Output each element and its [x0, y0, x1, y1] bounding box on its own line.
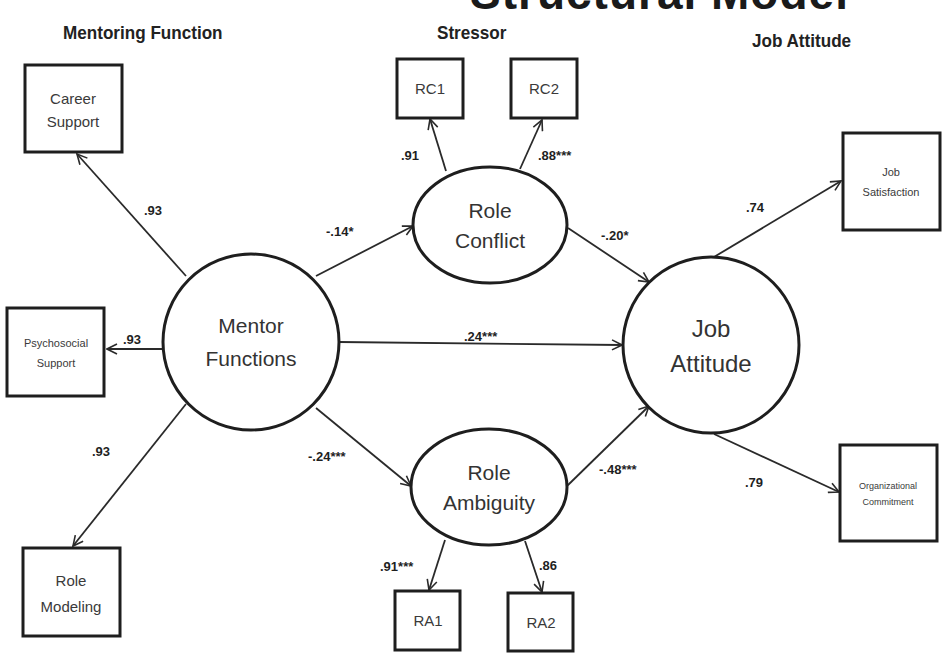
ra1-label: RA1: [413, 612, 442, 629]
mentor-functions-label-2: Functions: [205, 347, 296, 370]
role-modeling-label-2: Modeling: [41, 598, 102, 615]
psychosocial-label-2: Support: [37, 357, 76, 369]
job-satisfaction-label-1: Job: [882, 166, 900, 178]
role-ambiguity-label-1: Role: [467, 461, 510, 484]
role-conflict-label-1: Role: [468, 199, 511, 222]
path-mf-modeling: [73, 404, 186, 546]
latent-role-conflict: Role Conflict: [413, 167, 567, 283]
path-ja-satisfaction: [714, 181, 841, 257]
mentor-functions-label-1: Mentor: [218, 314, 283, 337]
indicator-role-modeling: Role Modeling: [23, 548, 120, 636]
indicator-rc2: RC2: [511, 59, 577, 118]
coef-rc-rc1: .91: [401, 148, 419, 163]
indicator-organizational-commitment: Organizational Commitment: [840, 445, 937, 541]
job-attitude-label-1: Job: [692, 315, 731, 342]
indicator-career-support: Career Support: [25, 65, 122, 152]
latent-job-attitude: Job Attitude: [623, 257, 799, 433]
latent-role-ambiguity: Role Ambiguity: [411, 429, 567, 545]
coef-mf-job-attitude: .24***: [464, 329, 498, 344]
latent-mentor-functions: Mentor Functions: [163, 254, 339, 430]
org-commitment-label-1: Organizational: [859, 481, 917, 491]
role-ambiguity-label-2: Ambiguity: [443, 491, 536, 514]
path-mf-career: [77, 154, 186, 276]
coef-rc-job-attitude: -.20*: [601, 228, 629, 243]
coef-mf-role-conflict: -.14*: [326, 224, 354, 239]
rc2-label: RC2: [529, 80, 559, 97]
indicator-ra1: RA1: [395, 591, 460, 650]
coef-mf-modeling: .93: [92, 444, 110, 459]
ra2-label: RA2: [526, 614, 555, 631]
coef-rc-rc2: .88***: [538, 148, 572, 163]
coef-mf-role-ambiguity: -.24***: [308, 449, 347, 464]
sem-diagram: Career Support Psychosocial Support Role…: [0, 0, 952, 663]
indicator-rc1: RC1: [397, 59, 463, 118]
role-conflict-label-2: Conflict: [455, 229, 525, 252]
rc1-label: RC1: [415, 80, 445, 97]
coef-mf-psychosocial: .93: [123, 332, 141, 347]
coef-ja-commitment: .79: [745, 475, 763, 490]
role-modeling-label-1: Role: [56, 572, 87, 589]
indicator-psychosocial-support: Psychosocial Support: [7, 308, 104, 396]
job-attitude-label-2: Attitude: [670, 350, 751, 377]
coef-ra-job-attitude: -.48***: [599, 462, 638, 477]
org-commitment-label-2: Commitment: [862, 497, 914, 507]
coef-ja-satisfaction: .74: [746, 200, 765, 215]
coef-ra-ra2: .86: [539, 558, 557, 573]
indicator-ra2: RA2: [508, 593, 573, 651]
career-support-label-1: Career: [50, 90, 96, 107]
path-mf-role-ambiguity: [316, 408, 411, 486]
path-rc-rc1: [430, 119, 446, 171]
coef-ra-ra1: .91***: [380, 559, 414, 574]
psychosocial-label-1: Psychosocial: [24, 337, 88, 349]
indicator-job-satisfaction: Job Satisfaction: [843, 133, 940, 230]
career-support-label-2: Support: [47, 113, 100, 130]
job-satisfaction-label-2: Satisfaction: [863, 186, 920, 198]
path-ja-commitment: [714, 434, 839, 492]
path-ra-ra1: [429, 540, 445, 590]
coef-mf-career: .93: [144, 203, 162, 218]
